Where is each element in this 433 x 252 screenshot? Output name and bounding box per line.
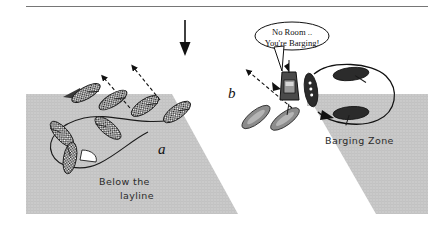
speech-bubble-line2: You're Barging!	[258, 38, 326, 49]
boat-b-top	[332, 66, 370, 86]
speech-bubble-text: No Room .. You're Barging!	[258, 27, 326, 48]
speech-bubble-line1: No Room ..	[258, 27, 326, 38]
shaded-zone-connector	[307, 94, 428, 106]
below-layline-label-line2: layline	[120, 190, 154, 201]
boat-b-gray-1	[239, 101, 274, 132]
panel-a-label: a	[158, 141, 166, 158]
boat-b-left	[302, 72, 320, 107]
boat-b-gray-2	[265, 101, 302, 134]
figure-canvas: No Room .. You're Barging! a b Below the…	[0, 0, 433, 252]
wind-direction-arrow	[180, 20, 191, 56]
panel-b-port-arrow	[272, 82, 281, 91]
below-layline-label-line1: Below the	[99, 176, 150, 187]
panel-b-label: b	[228, 85, 236, 102]
diagram-svg	[0, 0, 433, 252]
barging-zone-label: Barging Zone	[325, 135, 394, 146]
